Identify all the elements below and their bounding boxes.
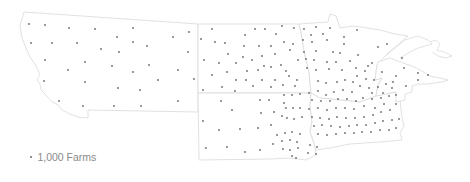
farm-dot — [177, 69, 179, 71]
state-montana — [20, 12, 198, 118]
farm-dot — [259, 149, 261, 151]
farm-dot — [345, 117, 347, 119]
farm-dot — [283, 94, 285, 96]
state-north-dakota — [198, 24, 311, 93]
farm-dot — [202, 89, 204, 91]
farm-dot — [227, 53, 229, 55]
farm-dot — [299, 133, 301, 135]
farm-dot — [385, 83, 387, 85]
farm-dot — [339, 126, 341, 128]
farm-dot — [373, 79, 375, 81]
farm-dot — [356, 75, 358, 77]
farm-dot — [28, 23, 30, 25]
farm-dot — [388, 95, 390, 97]
farm-dot — [361, 131, 363, 133]
farm-dot — [315, 26, 317, 28]
farm-dot — [427, 74, 429, 76]
farm-dot — [354, 117, 356, 119]
farm-dot — [251, 59, 253, 61]
farm-dot — [270, 66, 272, 68]
farm-dot — [293, 118, 295, 120]
farm-dot — [405, 85, 407, 87]
farm-dot — [371, 92, 373, 94]
farm-dot — [280, 64, 282, 66]
farm-dot — [58, 100, 60, 102]
farm-dot — [177, 100, 179, 102]
farm-dot — [140, 105, 142, 107]
farm-dot — [359, 85, 361, 87]
farm-dot — [218, 129, 220, 131]
farm-dot — [234, 90, 236, 92]
farm-dot — [348, 125, 350, 127]
farm-dot — [317, 133, 319, 135]
farm-dot — [294, 85, 296, 87]
farm-dot — [274, 53, 276, 55]
farm-dot — [380, 111, 382, 113]
farm-dot — [315, 153, 317, 155]
farm-dot — [254, 28, 256, 30]
farm-dot — [320, 100, 322, 102]
farm-dot — [315, 69, 317, 71]
farm-dot — [235, 62, 237, 64]
farm-dot — [193, 78, 195, 80]
farm-dot — [313, 125, 315, 127]
farm-dot — [187, 51, 189, 53]
farm-dot — [308, 108, 310, 110]
farm-dot — [335, 107, 337, 109]
farm-dot — [388, 129, 390, 131]
farm-dot — [252, 85, 254, 87]
farm-dot — [259, 99, 261, 101]
farm-dot — [352, 81, 354, 83]
farm-dot — [398, 118, 400, 120]
farm-dot — [276, 134, 278, 136]
farm-dot — [417, 79, 419, 81]
farm-dot — [132, 71, 134, 73]
farm-dot — [344, 132, 346, 134]
farm-dot — [336, 116, 338, 118]
farm-dot — [281, 140, 283, 142]
farm-dot — [401, 57, 403, 59]
farm-dot — [321, 124, 323, 126]
farm-dot — [275, 33, 277, 35]
farm-dot — [76, 42, 78, 44]
farm-dot — [302, 39, 304, 41]
farm-dot — [322, 33, 324, 35]
farm-dot — [356, 29, 358, 31]
farm-dot — [264, 28, 266, 30]
farm-dot — [205, 147, 207, 149]
farm-dot — [355, 67, 357, 69]
farm-dot — [283, 102, 285, 104]
farm-dot — [117, 87, 119, 89]
farm-dot — [353, 132, 355, 134]
farm-dot — [382, 120, 384, 122]
farm-dot — [84, 61, 86, 63]
farm-dot — [339, 52, 341, 54]
farm-dot — [303, 28, 305, 30]
farm-dot — [148, 64, 150, 66]
farm-dot — [365, 78, 367, 80]
farm-dot — [282, 148, 284, 150]
farm-dot — [328, 68, 330, 70]
farm-dot — [224, 42, 226, 44]
farm-dot — [349, 60, 351, 62]
farm-dot — [335, 133, 337, 135]
farm-dot — [281, 115, 283, 117]
farm-dot — [270, 45, 272, 47]
farm-dot — [67, 69, 69, 71]
farm-dot — [315, 50, 317, 52]
legend-dot-icon — [30, 156, 32, 158]
farm-dot — [43, 80, 45, 82]
farm-dot — [391, 119, 393, 121]
farm-dot — [268, 99, 270, 101]
farm-dot — [395, 94, 397, 96]
farm-dot — [283, 41, 285, 43]
farm-dot — [328, 118, 330, 120]
farm-dot — [260, 112, 262, 114]
farm-dot — [326, 61, 328, 63]
farm-dot — [263, 65, 265, 67]
farm-dot — [292, 107, 294, 109]
farm-dot — [356, 124, 358, 126]
farm-dot — [372, 114, 374, 116]
farm-dot — [203, 59, 205, 61]
farm-dot — [326, 109, 328, 111]
